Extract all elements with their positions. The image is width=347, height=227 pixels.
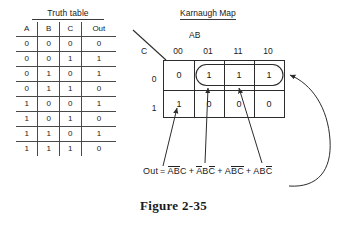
column-header-b: B (38, 22, 60, 37)
equation-operator-3: + (244, 166, 253, 176)
cell-b: 0 (38, 37, 60, 52)
karnaugh-map-grid: 0 1 1 1 1 0 0 0 (163, 60, 285, 118)
boolean-equation: Out=ABC+ABC+ABC+ABC (143, 166, 272, 176)
pointer-term4-to-cell-r0c3 (289, 75, 330, 186)
kmap-cell-r1c3: 0 (254, 90, 284, 119)
cell-out: 1 (81, 67, 116, 82)
table-header-row: A B C Out (16, 22, 116, 37)
equation-term-1: ABC (168, 166, 187, 176)
table-row: 0 1 0 1 (16, 67, 116, 82)
cell-a: 0 (16, 67, 38, 82)
column-header-c: C (59, 22, 81, 37)
figure-caption: Figure 2-35 (0, 198, 347, 214)
cell-out: 1 (81, 127, 116, 142)
kmap-col-header-10: 10 (253, 46, 283, 56)
kmap-cell-r0c2: 1 (224, 61, 254, 90)
complement-bar-span: AB (168, 166, 180, 176)
cell-c: 1 (59, 142, 81, 157)
cell-a: 1 (16, 112, 38, 127)
cell-c: 1 (59, 112, 81, 127)
cell-b: 1 (38, 82, 60, 97)
equation-operator-2: + (215, 166, 224, 176)
kmap-cell-r1c0: 1 (164, 90, 194, 119)
karnaugh-map-title: Karnaugh Map (180, 8, 236, 20)
table-row: 1 1 0 1 (16, 127, 116, 142)
cell-b: 0 (38, 52, 60, 67)
table-row: 0 1 1 0 (16, 82, 116, 97)
cell-out: 0 (81, 112, 116, 127)
cell-c: 0 (59, 97, 81, 112)
complement-bar-span: BC (231, 166, 244, 176)
table-row: 1 0 1 0 (16, 112, 116, 127)
table-row: 0 0 1 1 (16, 52, 116, 67)
equation-lhs: Out (143, 166, 158, 176)
literal-span: C (180, 166, 187, 176)
kmap-row-header-0: 0 (148, 74, 160, 84)
cell-a: 0 (16, 37, 38, 52)
kmap-axis-label-c: C (141, 46, 147, 56)
cell-c: 1 (59, 52, 81, 67)
cell-a: 0 (16, 82, 38, 97)
truth-table-grid: A B C Out 0 0 0 0 0 0 1 1 (16, 22, 116, 156)
kmap-col-header-01: 01 (193, 46, 223, 56)
kmap-col-header-11: 11 (223, 46, 253, 56)
cell-a: 0 (16, 52, 38, 67)
cell-b: 1 (38, 67, 60, 82)
kmap-cell-r0c1: 1 (194, 61, 224, 90)
kmap-cell-r1c1: 0 (194, 90, 224, 119)
kmap-axis-label-ab: AB (189, 30, 200, 40)
cell-c: 0 (59, 37, 81, 52)
cell-c: 1 (59, 82, 81, 97)
equation-operator-1: + (187, 166, 196, 176)
cell-a: 1 (16, 97, 38, 112)
equation-term-4: ABC (253, 166, 272, 176)
cell-out: 1 (81, 97, 116, 112)
cell-b: 0 (38, 112, 60, 127)
figure-2-35: Truth table A B C Out 0 0 0 0 (0, 0, 347, 227)
equation-equals: = (158, 166, 167, 176)
kmap-axis-divider-diagonal (133, 30, 166, 60)
cell-c: 0 (59, 67, 81, 82)
table-row: 1 0 0 1 (16, 97, 116, 112)
literal-span: AB (253, 166, 265, 176)
kmap-col-header-00: 00 (163, 46, 193, 56)
kmap-cell-r1c2: 0 (224, 90, 254, 119)
equation-term-3: ABC (225, 166, 244, 176)
cell-out: 0 (81, 37, 116, 52)
cell-b: 1 (38, 127, 60, 142)
cell-b: 1 (38, 142, 60, 157)
complement-bar-span: C (266, 166, 273, 176)
cell-b: 0 (38, 97, 60, 112)
cell-a: 1 (16, 127, 38, 142)
table-row: 0 0 0 0 (16, 37, 116, 52)
kmap-cell-r0c3: 1 (254, 61, 284, 90)
truth-table: Truth table A B C Out 0 0 0 0 (12, 8, 124, 156)
column-header-out: Out (81, 22, 116, 37)
cell-out: 0 (81, 82, 116, 97)
kmap-cell-r0c0: 0 (164, 61, 194, 90)
truth-table-title: Truth table (32, 8, 104, 20)
table-row: 1 1 1 0 (16, 142, 116, 157)
cell-a: 1 (16, 142, 38, 157)
kmap-row-header-1: 1 (148, 103, 160, 113)
cell-out: 1 (81, 52, 116, 67)
cell-out: 0 (81, 142, 116, 157)
cell-c: 0 (59, 127, 81, 142)
equation-term-2: ABC (196, 166, 215, 176)
column-header-a: A (16, 22, 38, 37)
